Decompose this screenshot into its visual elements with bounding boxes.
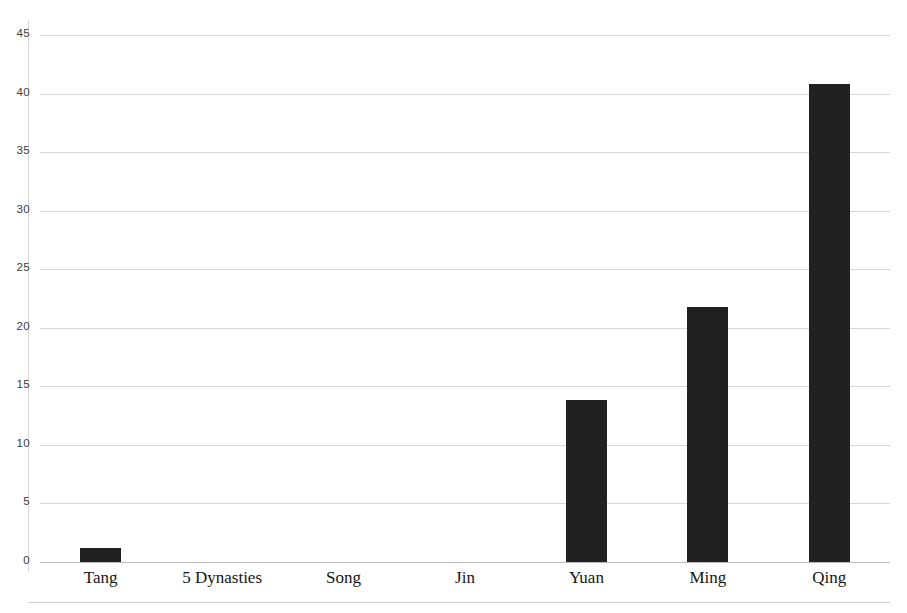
bar-tang[interactable]: [80, 548, 121, 562]
x-tick-label: Jin: [404, 568, 525, 588]
x-tick-label: Ming: [647, 568, 768, 588]
bars-layer: [0, 0, 907, 613]
x-tick-label: Yuan: [526, 568, 647, 588]
bar-ming[interactable]: [687, 307, 728, 562]
x-tick-label: Tang: [40, 568, 161, 588]
bar-yuan[interactable]: [566, 400, 607, 562]
bar-chart: 051015202530354045 Tang5 DynastiesSongJi…: [0, 0, 907, 613]
bar-qing[interactable]: [809, 84, 850, 562]
x-tick-label: Qing: [769, 568, 890, 588]
x-tick-label: Song: [283, 568, 404, 588]
x-tick-label: 5 Dynasties: [161, 568, 282, 588]
